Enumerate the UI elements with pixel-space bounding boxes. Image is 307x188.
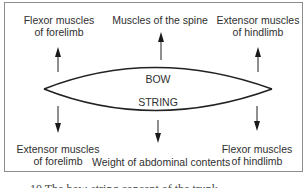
- label-flexor-hindlimb: Flexor muscles of hindlimb: [214, 143, 300, 167]
- label-muscles-spine: Muscles of the spine: [105, 14, 215, 26]
- figure-caption: 10 The bow-string concept of the trunk: [30, 182, 218, 188]
- string-label: STRING: [118, 96, 198, 108]
- label-flexor-forelimb: Flexor muscles of forelimb: [14, 14, 104, 38]
- bow-label: BOW: [128, 73, 188, 85]
- label-extensor-hindlimb: Extensor muscles of hindlimb: [212, 14, 304, 38]
- label-weight-abdominal: Weight of abdominal contents: [92, 156, 228, 168]
